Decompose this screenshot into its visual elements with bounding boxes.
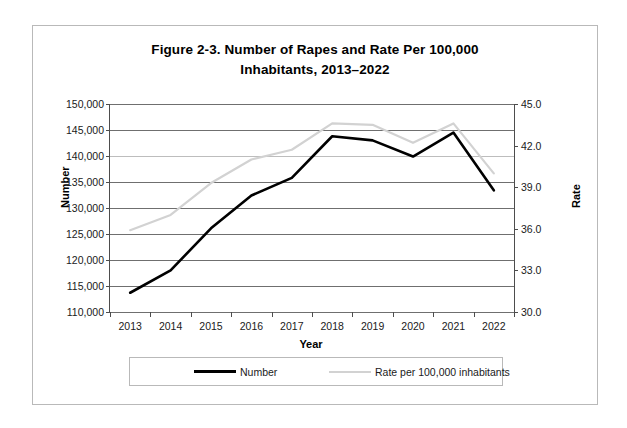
y-axis-right-tick-label: 33.0	[521, 264, 541, 276]
x-axis-tick-label: 2020	[401, 320, 424, 332]
x-axis-tick	[312, 312, 313, 317]
x-axis-tick	[272, 312, 273, 317]
y-axis-right-tick-label: 42.0	[521, 140, 541, 152]
y-axis-left-tick-label: 115,000	[67, 280, 104, 292]
y-axis-right-tick-label: 39.0	[521, 181, 541, 193]
y-axis-left-tick-label: 135,000	[66, 176, 104, 188]
legend-swatch-number-icon	[194, 370, 236, 373]
x-axis-tick	[231, 312, 232, 317]
plot-wrapper: Number Rate Year 150,000145,000140,00013…	[33, 26, 599, 406]
number-series-line	[130, 133, 494, 293]
y-axis-right-tick-label: 30.0	[521, 306, 541, 318]
y-axis-left-tick-label: 140,000	[66, 150, 104, 162]
x-axis-tick-label: 2016	[240, 320, 263, 332]
plot-area: 150,000145,000140,000135,000130,000125,0…	[109, 104, 515, 312]
x-axis-tick-label: 2018	[321, 320, 344, 332]
legend-item-number: Number	[194, 366, 277, 378]
rate-series-line	[130, 123, 494, 230]
x-axis-tick	[433, 312, 434, 317]
y-axis-left-tick-label: 145,000	[66, 124, 104, 136]
series-plot	[110, 104, 514, 312]
y-axis-right-tick	[514, 104, 518, 105]
y-axis-right-tick	[514, 187, 518, 188]
x-axis-tick	[110, 312, 111, 317]
x-axis-tick-label: 2017	[280, 320, 303, 332]
x-axis-tick	[150, 312, 151, 317]
legend-label-number: Number	[240, 366, 277, 378]
x-axis-tick	[191, 312, 192, 317]
chart-legend: Number Rate per 100,000 inhabitants	[129, 357, 503, 386]
x-axis-tick	[352, 312, 353, 317]
y-axis-right-tick	[514, 229, 518, 230]
x-axis-tick	[393, 312, 394, 317]
x-axis-tick-label: 2013	[119, 320, 142, 332]
x-axis-tick-label: 2014	[159, 320, 182, 332]
x-axis-tick	[474, 312, 475, 317]
legend-label-rate: Rate per 100,000 inhabitants	[375, 366, 510, 378]
y-axis-right-tick	[514, 146, 518, 147]
x-axis-tick-label: 2019	[361, 320, 384, 332]
x-axis-tick-label: 2015	[199, 320, 222, 332]
y-axis-right-tick-label: 36.0	[521, 223, 541, 235]
figure-frame: Figure 2-3. Number of Rapes and Rate Per…	[32, 25, 598, 405]
y-axis-left-tick-label: 125,000	[66, 228, 104, 240]
y-axis-left-tick-label: 130,000	[66, 202, 104, 214]
y-axis-right-tick-label: 45.0	[521, 98, 541, 110]
legend-item-rate: Rate per 100,000 inhabitants	[329, 366, 510, 378]
y-axis-left-tick-label: 120,000	[66, 254, 104, 266]
x-axis-tick	[514, 312, 515, 317]
y-axis-left-tick-label: 150,000	[66, 98, 104, 110]
y-axis-right-title: Rate	[570, 184, 582, 208]
x-axis-tick-label: 2021	[442, 320, 465, 332]
x-axis-title: Year	[109, 338, 513, 350]
x-axis-tick-label: 2022	[482, 320, 505, 332]
y-axis-right-tick	[514, 270, 518, 271]
legend-swatch-rate-icon	[329, 371, 371, 373]
y-axis-left-tick-label: 110,000	[67, 306, 104, 318]
